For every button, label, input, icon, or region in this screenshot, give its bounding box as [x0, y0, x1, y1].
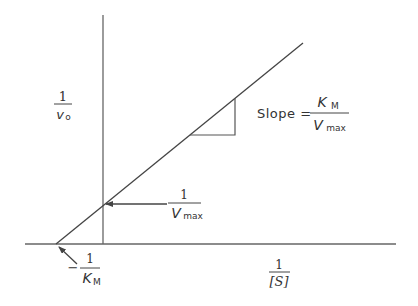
x-intercept-label: − 1 K M — [68, 252, 101, 287]
y-axis-label: 1 v o — [54, 89, 72, 122]
svg-text:−: − — [68, 260, 79, 275]
svg-text:Slope =: Slope = — [257, 106, 312, 121]
y-intercept-label: 1 V max — [168, 188, 203, 221]
svg-text:[S]: [S] — [269, 274, 289, 289]
x-axis-label: 1 [S] — [269, 258, 290, 289]
svg-text:V: V — [313, 117, 324, 133]
svg-text:o: o — [65, 112, 71, 122]
lineweaver-burk-diagram: 1 v o Slope = K M V max 1 V max − 1 K M … — [0, 0, 418, 306]
svg-text:max: max — [326, 123, 346, 133]
svg-text:K: K — [317, 94, 328, 110]
svg-text:M: M — [93, 277, 101, 287]
slope-label: Slope = K M V max — [257, 94, 349, 133]
svg-text:V: V — [171, 205, 182, 221]
svg-text:1: 1 — [180, 188, 188, 202]
svg-text:max: max — [183, 211, 203, 221]
svg-text:K: K — [82, 270, 93, 286]
svg-text:M: M — [331, 101, 339, 111]
svg-text:v: v — [56, 107, 64, 122]
svg-text:1: 1 — [275, 258, 283, 272]
svg-text:1: 1 — [86, 252, 94, 266]
svg-text:1: 1 — [59, 89, 67, 104]
